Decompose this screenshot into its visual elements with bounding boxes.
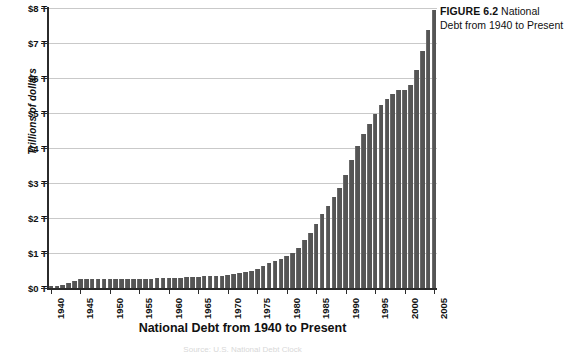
bar — [196, 277, 201, 288]
x-tick-label: 1950 — [114, 298, 125, 319]
x-tick-label: 2005 — [438, 298, 449, 319]
x-tick-label: 1965 — [202, 298, 213, 319]
bar — [178, 278, 183, 289]
bar — [284, 256, 289, 288]
bar — [172, 278, 177, 288]
x-tick-label: 1970 — [232, 298, 243, 319]
bar — [255, 269, 260, 288]
bar — [261, 266, 266, 288]
bar — [267, 263, 272, 288]
bar — [290, 253, 295, 288]
bar — [96, 279, 101, 288]
source-note: Source: U.S. National Debt Clock — [48, 345, 437, 353]
bar — [249, 271, 254, 288]
bar — [84, 279, 89, 288]
bar — [337, 188, 342, 288]
bar — [279, 259, 284, 288]
figure-caption: FIGURE 6.2 National Debt from 1940 to Pr… — [440, 4, 564, 32]
x-tick-label: 2000 — [409, 298, 420, 319]
bar — [273, 261, 278, 288]
bar — [414, 70, 419, 288]
bar — [113, 279, 118, 288]
bar — [220, 276, 225, 288]
bar — [102, 279, 107, 288]
x-tick-label: 1940 — [55, 298, 66, 319]
x-tick-label: 1985 — [320, 298, 331, 319]
bar — [349, 160, 354, 288]
chart-plot-area — [48, 8, 437, 288]
bar — [379, 105, 384, 288]
bar — [161, 278, 166, 288]
bar — [155, 278, 160, 288]
bar — [396, 90, 401, 288]
bar — [402, 90, 407, 288]
bar — [90, 279, 95, 288]
bar — [202, 276, 207, 288]
x-tick-label: 1955 — [143, 298, 154, 319]
y-axis-line — [47, 7, 49, 289]
bar — [143, 279, 148, 288]
bar — [208, 276, 213, 288]
bar — [72, 281, 77, 288]
y-axis-ticks: $0 T$1 T$2 T$3 T$4 T$5 T$6 T$7 T$8 T — [0, 8, 47, 288]
bar — [355, 146, 360, 288]
x-tick-label: 1995 — [379, 298, 390, 319]
bar — [373, 114, 378, 288]
bar — [320, 214, 325, 288]
bar — [343, 175, 348, 288]
bar — [332, 197, 337, 288]
bar — [125, 279, 130, 288]
bar — [225, 275, 230, 288]
x-tick-label: 1975 — [261, 298, 272, 319]
bar — [390, 94, 395, 288]
bar — [184, 277, 189, 288]
bar — [108, 279, 113, 288]
bar — [308, 233, 313, 288]
bar — [385, 99, 390, 288]
bar — [326, 206, 331, 288]
bar — [137, 279, 142, 288]
x-axis-title: National Debt from 1940 to Present — [48, 321, 437, 335]
bar — [420, 51, 425, 288]
x-axis-tick-labels: 1940194519501955196019651970197519801985… — [48, 293, 437, 319]
bar — [367, 124, 372, 288]
bar — [302, 240, 307, 288]
bar — [214, 276, 219, 288]
bar — [314, 224, 319, 288]
x-tick-label: 1980 — [291, 298, 302, 319]
bar — [296, 248, 301, 288]
bar — [190, 277, 195, 288]
bar — [243, 272, 248, 288]
bar — [131, 279, 136, 288]
bar — [432, 10, 437, 288]
bar — [149, 279, 154, 288]
bar — [237, 273, 242, 288]
figure-number: FIGURE 6.2 — [440, 5, 498, 17]
x-tick-label: 1945 — [84, 298, 95, 319]
bar — [426, 30, 431, 288]
bar — [231, 274, 236, 288]
bar — [408, 85, 413, 288]
bar — [167, 278, 172, 288]
bar — [361, 134, 366, 288]
x-tick-label: 1990 — [350, 298, 361, 319]
bar — [119, 279, 124, 288]
bar — [78, 279, 83, 288]
bar-series — [48, 8, 437, 288]
x-tick-label: 1960 — [173, 298, 184, 319]
